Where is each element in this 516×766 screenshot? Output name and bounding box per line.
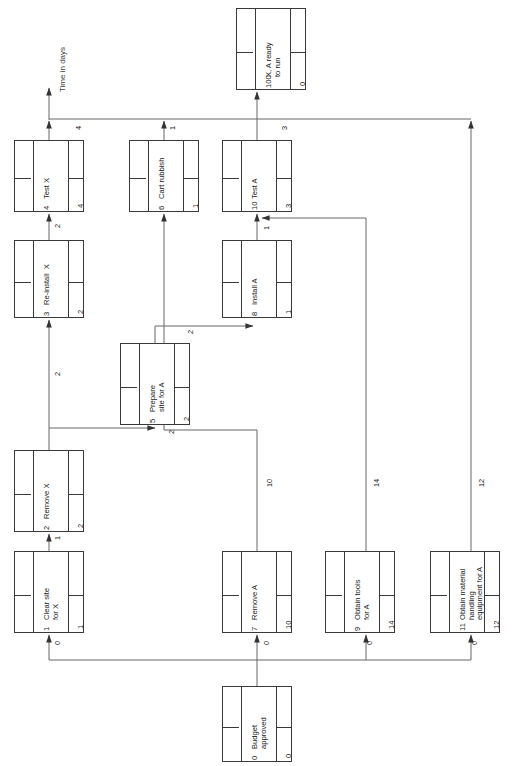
node-divider xyxy=(174,344,175,424)
node-8[interactable]: 8Install A1 xyxy=(222,240,292,318)
node-11[interactable]: 11Obtain material handling equipment for… xyxy=(430,551,500,633)
node-duration: 2 xyxy=(77,310,86,314)
node-number: 6 xyxy=(158,206,167,210)
diagram-connectors xyxy=(0,0,516,766)
node-divider xyxy=(223,727,239,728)
node-label: Cart rubbish xyxy=(158,158,167,199)
edge-label: 2 xyxy=(53,224,62,228)
node-divider xyxy=(241,241,242,317)
edge-label: 12 xyxy=(477,479,486,487)
node-divider xyxy=(68,282,83,283)
node-duration: 12 xyxy=(493,621,502,629)
node-label: Obtain tools for A xyxy=(354,579,371,620)
node-divider xyxy=(276,141,277,211)
node-divider xyxy=(326,595,342,596)
node-label: Obtain material handling equipment for A xyxy=(459,567,485,620)
node-divider xyxy=(68,178,83,179)
node-divider xyxy=(255,9,256,89)
edge-label: 2 xyxy=(186,330,195,334)
node-number: 2 xyxy=(43,526,52,530)
node-duration: 1 xyxy=(192,204,201,208)
node-divider xyxy=(148,141,149,211)
node-0[interactable]: 0Budget approved0 xyxy=(222,686,292,762)
node-divider xyxy=(33,241,34,317)
node-number: 3 xyxy=(43,312,52,316)
node-divider xyxy=(68,595,83,596)
node-divider xyxy=(276,595,291,596)
node-divider xyxy=(237,52,253,53)
node-divider xyxy=(68,241,69,317)
node-4[interactable]: 4Test X4 xyxy=(14,140,84,212)
node-label: Budget approved xyxy=(251,717,268,749)
node-divider xyxy=(344,552,345,632)
node-label: X, A ready to run xyxy=(265,42,282,77)
edge-label: 4 xyxy=(74,126,83,130)
node-divider xyxy=(276,178,291,179)
edge-label: 2 xyxy=(167,430,176,434)
node-duration: 4 xyxy=(77,204,86,208)
node-divider xyxy=(33,552,34,632)
node-1[interactable]: 1Clear site for X1 xyxy=(14,551,84,633)
node-divider xyxy=(449,552,450,632)
node-number: 0 xyxy=(251,756,260,760)
node-divider xyxy=(276,727,291,728)
node-10[interactable]: 10Test A3 xyxy=(222,140,292,212)
node-3[interactable]: 3Re-install X2 xyxy=(14,240,84,318)
node-100[interactable]: 100X, A ready to run0 xyxy=(236,8,306,90)
node-divider xyxy=(484,595,499,596)
node-label: Test X xyxy=(43,178,52,199)
node-divider xyxy=(276,552,277,632)
edge-label: 10 xyxy=(265,479,274,487)
node-label: Clear site for X xyxy=(43,588,60,620)
edge-label: 2 xyxy=(53,372,62,376)
node-duration: 0 xyxy=(299,82,308,86)
node-duration: 0 xyxy=(285,754,294,758)
node-divider xyxy=(241,141,242,211)
node-6[interactable]: 6Cart rubbish1 xyxy=(129,140,199,212)
node-number: 10 xyxy=(251,202,260,210)
edge-label: 1 xyxy=(53,536,62,540)
edge-label: 1 xyxy=(262,226,271,230)
node-number: 4 xyxy=(43,206,52,210)
node-divider xyxy=(121,387,137,388)
node-divider xyxy=(68,141,69,211)
node-divider xyxy=(241,687,242,761)
node-divider xyxy=(241,552,242,632)
node-divider xyxy=(139,344,140,424)
node-number: 8 xyxy=(251,312,260,316)
node-label: Re-install X xyxy=(43,264,52,305)
node-divider xyxy=(33,141,34,211)
node-divider xyxy=(15,494,31,495)
network-diagram: Time in days 100X, A ready to run04Test … xyxy=(0,0,516,766)
node-5[interactable]: 5Prepare site for A2 xyxy=(120,343,190,425)
node-divider xyxy=(68,451,69,531)
node-label: Test A xyxy=(251,178,260,199)
node-2[interactable]: 2Remove X2 xyxy=(14,450,84,532)
node-label: Prepare site for A xyxy=(149,382,166,412)
edge-label: 0 xyxy=(262,641,271,645)
node-number: 9 xyxy=(354,627,363,631)
edge-label: 3 xyxy=(280,126,289,130)
node-divider xyxy=(276,687,277,761)
node-divider xyxy=(183,178,198,179)
node-number: 7 xyxy=(251,627,260,631)
node-7[interactable]: 7Remove A10 xyxy=(222,551,292,633)
node-divider xyxy=(15,282,31,283)
node-divider xyxy=(290,9,291,89)
node-9[interactable]: 9Obtain tools for A14 xyxy=(325,551,395,633)
edge-label: 0 xyxy=(53,641,62,645)
node-divider xyxy=(223,282,239,283)
node-number: 100 xyxy=(265,75,274,88)
node-duration: 3 xyxy=(285,204,294,208)
node-divider xyxy=(33,451,34,531)
node-label: Install A xyxy=(251,278,260,305)
node-number: 11 xyxy=(459,623,468,631)
node-number: 5 xyxy=(149,419,158,423)
edge-label: 14 xyxy=(372,479,381,487)
node-divider xyxy=(68,552,69,632)
node-duration: 1 xyxy=(77,625,86,629)
edge-label: 0 xyxy=(470,641,479,645)
node-divider xyxy=(130,178,146,179)
edge-label: 1 xyxy=(168,126,177,130)
node-divider xyxy=(15,178,31,179)
